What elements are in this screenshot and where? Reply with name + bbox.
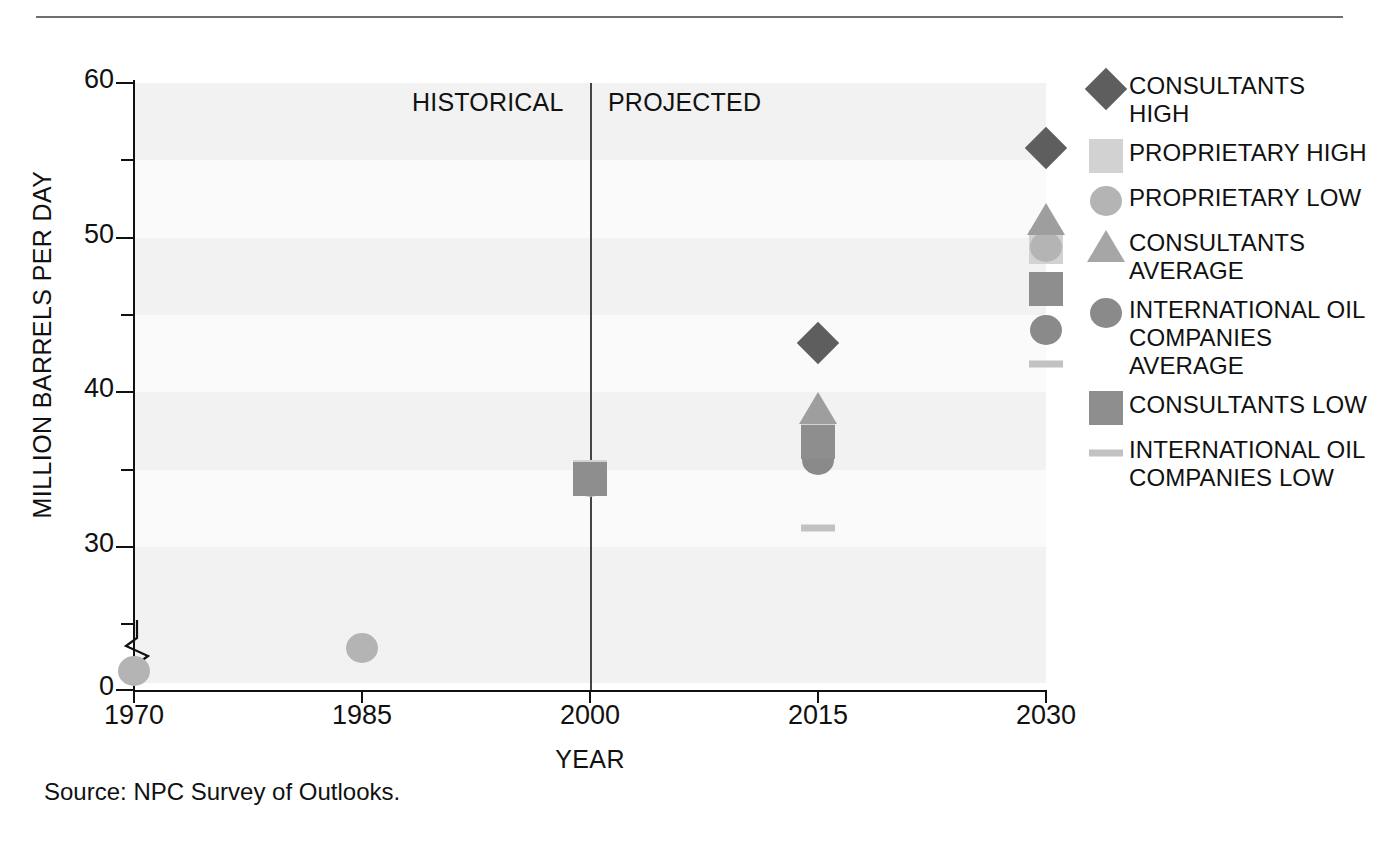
legend-marker-triangle-icon <box>1083 229 1129 263</box>
data-point <box>346 633 378 663</box>
y-tick <box>116 237 133 239</box>
legend-marker-dash-icon <box>1083 436 1129 470</box>
data-point <box>801 525 835 532</box>
legend-marker-circle-icon <box>1083 184 1129 218</box>
legend-item-label: PROPRIETARY HIGH <box>1129 139 1367 167</box>
data-point <box>801 425 835 459</box>
legend-item[interactable]: PROPRIETARY LOW <box>1083 184 1368 218</box>
data-point <box>118 656 150 686</box>
y-axis-line <box>133 80 135 692</box>
y-tick <box>116 391 133 393</box>
x-tick-label: 2030 <box>976 700 1116 731</box>
legend-item[interactable]: CONSULTANTS HIGH <box>1083 72 1368 128</box>
y-axis-title: MILLION BARRELS PER DAY <box>28 65 57 625</box>
top-rule <box>36 16 1343 18</box>
legend-item-label: PROPRIETARY LOW <box>1129 184 1361 212</box>
figure-canvas: 605040300 19701985200020152030 HISTORICA… <box>0 0 1379 849</box>
legend-item[interactable]: INTERNATIONAL OIL COMPANIES AVERAGE <box>1083 296 1368 380</box>
legend-item-label: CONSULTANTS LOW <box>1129 391 1367 419</box>
y-tick <box>116 82 133 84</box>
data-point <box>1029 361 1063 368</box>
source-note: Source: NPC Survey of Outlooks. <box>44 778 400 806</box>
data-point <box>573 462 607 496</box>
y-tick-minor <box>121 469 133 471</box>
x-tick-label: 1970 <box>64 700 204 731</box>
legend-item[interactable]: CONSULTANTS AVERAGE <box>1083 229 1368 285</box>
y-tick-label: 0 <box>44 671 114 702</box>
legend-item-label: INTERNATIONAL OIL COMPANIES LOW <box>1129 436 1368 492</box>
y-tick-minor <box>121 314 133 316</box>
data-point <box>1030 315 1062 345</box>
y-tick-minor <box>121 159 133 161</box>
data-point <box>1029 272 1063 306</box>
x-tick-label: 1985 <box>292 700 432 731</box>
data-point <box>1027 203 1065 235</box>
legend-marker-diamond-icon <box>1083 72 1129 106</box>
chart-legend: CONSULTANTS HIGHPROPRIETARY HIGHPROPRIET… <box>1083 72 1368 503</box>
era-divider <box>590 83 592 690</box>
label-historical: HISTORICAL <box>412 88 564 117</box>
x-axis-title: YEAR <box>470 745 710 774</box>
data-point <box>799 392 837 424</box>
legend-item-label: INTERNATIONAL OIL COMPANIES AVERAGE <box>1129 296 1368 380</box>
legend-item-label: CONSULTANTS HIGH <box>1129 72 1368 128</box>
x-tick-label: 2000 <box>520 700 660 731</box>
y-tick <box>116 689 133 691</box>
label-projected: PROJECTED <box>608 88 761 117</box>
legend-item[interactable]: INTERNATIONAL OIL COMPANIES LOW <box>1083 436 1368 492</box>
y-tick <box>116 546 133 548</box>
data-point <box>1030 232 1062 262</box>
legend-marker-square-icon <box>1083 139 1129 173</box>
legend-item[interactable]: PROPRIETARY HIGH <box>1083 139 1368 173</box>
x-tick-label: 2015 <box>748 700 888 731</box>
legend-marker-circle-icon <box>1083 296 1129 330</box>
legend-item[interactable]: CONSULTANTS LOW <box>1083 391 1368 425</box>
legend-marker-square-icon <box>1083 391 1129 425</box>
legend-item-label: CONSULTANTS AVERAGE <box>1129 229 1368 285</box>
